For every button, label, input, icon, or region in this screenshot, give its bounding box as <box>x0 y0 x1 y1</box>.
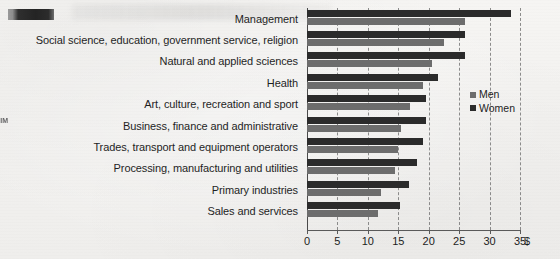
legend-label: Women <box>479 102 515 116</box>
bar-women <box>307 74 438 81</box>
bar-group <box>307 201 520 222</box>
legend-swatch-icon <box>470 105 476 111</box>
bar-men <box>307 189 381 196</box>
bar-women <box>307 31 465 38</box>
category-label: Processing, manufacturing and utilities <box>0 158 302 179</box>
bar-women <box>307 159 417 166</box>
bar-men <box>307 39 444 46</box>
legend-swatch-icon <box>470 92 476 98</box>
x-tick-label: 30 <box>483 235 495 247</box>
bar-men <box>307 103 410 110</box>
category-label: Art, culture, recreation and sport <box>0 94 302 115</box>
bar-men <box>307 167 395 174</box>
x-tick <box>307 230 308 234</box>
bar-women <box>307 202 400 209</box>
bar-women <box>307 52 465 59</box>
chart-legend: MenWomen <box>470 88 515 115</box>
legend-item-men: Men <box>470 88 515 102</box>
x-tick-label: 0 <box>304 235 310 247</box>
category-axis-labels: ManagementSocial science, education, gov… <box>0 8 302 222</box>
x-axis-unit-label: $ <box>524 235 530 247</box>
x-tick <box>429 230 430 234</box>
x-tick <box>459 230 460 234</box>
grouped-bar-chart: ManagementSocial science, education, gov… <box>0 0 560 259</box>
bar-group <box>307 8 520 29</box>
x-tick-label: 10 <box>362 235 374 247</box>
bar-men <box>307 60 432 67</box>
bar-women <box>307 10 511 17</box>
bar-men <box>307 82 423 89</box>
category-label: Social science, education, government se… <box>0 29 302 50</box>
x-tick <box>368 230 369 234</box>
bar-women <box>307 95 426 102</box>
x-tick <box>337 230 338 234</box>
category-label: Health <box>0 72 302 93</box>
category-label: Natural and applied sciences <box>0 51 302 72</box>
legend-label: Men <box>479 88 499 102</box>
x-tick-label: 5 <box>334 235 340 247</box>
bar-group <box>307 136 520 157</box>
bar-men <box>307 146 398 153</box>
gridline <box>520 8 521 230</box>
chart-screenshot: IIM ManagementSocial science, education,… <box>0 0 560 259</box>
bar-group <box>307 115 520 136</box>
category-label: Primary industries <box>0 179 302 200</box>
bar-women <box>307 138 423 145</box>
bar-women <box>307 181 409 188</box>
x-tick-label: 15 <box>392 235 404 247</box>
bar-group <box>307 51 520 72</box>
x-tick <box>520 230 521 234</box>
category-label: Business, finance and administrative <box>0 115 302 136</box>
x-tick-label: 25 <box>453 235 465 247</box>
plot-area <box>307 8 520 230</box>
bar-men <box>307 210 378 217</box>
bar-women <box>307 117 426 124</box>
bar-group <box>307 158 520 179</box>
x-tick <box>398 230 399 234</box>
x-tick <box>490 230 491 234</box>
x-tick-label: 20 <box>423 235 435 247</box>
legend-item-women: Women <box>470 102 515 116</box>
category-label: Trades, transport and equipment operator… <box>0 136 302 157</box>
bar-group <box>307 179 520 200</box>
category-label: Sales and services <box>0 201 302 222</box>
bar-group <box>307 29 520 50</box>
category-label: Management <box>0 8 302 29</box>
bar-men <box>307 125 401 132</box>
x-axis-line <box>307 230 520 231</box>
bar-men <box>307 18 465 25</box>
